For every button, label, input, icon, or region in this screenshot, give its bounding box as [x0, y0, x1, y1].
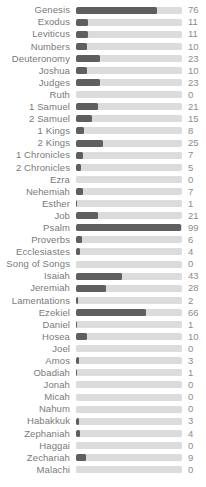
- value-label: 9: [188, 453, 193, 463]
- chart-row: Song of Songs0: [0, 258, 206, 270]
- chart-row: Joel0: [0, 343, 206, 355]
- bar-track: [76, 333, 182, 340]
- bar-track: [76, 369, 182, 376]
- chart-row: Numbers10: [0, 40, 206, 52]
- chart-row: Daniel1: [0, 318, 206, 330]
- value-label: 0: [188, 259, 193, 269]
- book-label: Job: [0, 211, 70, 221]
- book-label: Numbers: [0, 42, 70, 52]
- bar-track: [76, 406, 182, 413]
- chart-row: Micah0: [0, 391, 206, 403]
- chart-row: Nehemiah7: [0, 185, 206, 197]
- value-label: 7: [188, 150, 193, 160]
- value-label: 4: [188, 429, 193, 439]
- value-label: 99: [188, 223, 199, 233]
- chart-row: Ruth0: [0, 89, 206, 101]
- book-label: Esther: [0, 199, 70, 209]
- book-label: Zephaniah: [0, 429, 70, 439]
- chart-row: Habakkuk3: [0, 415, 206, 427]
- chart-row: Exodus11: [0, 16, 206, 28]
- value-label: 25: [188, 138, 199, 148]
- value-label: 5: [188, 163, 193, 173]
- bar-fill: [76, 454, 86, 461]
- value-label: 3: [188, 356, 193, 366]
- bar-chart: Genesis76Exodus11Leviticus11Numbers10Deu…: [0, 0, 206, 476]
- book-label: Exodus: [0, 17, 70, 27]
- bar-track: [76, 127, 182, 134]
- bar-fill: [76, 430, 80, 437]
- bar-track: [76, 394, 182, 401]
- bar-track: [76, 7, 182, 14]
- book-label: Joel: [0, 344, 70, 354]
- book-label: Habakkuk: [0, 416, 70, 426]
- book-label: Ezra: [0, 175, 70, 185]
- bar-track: [76, 152, 182, 159]
- bar-track: [76, 381, 182, 388]
- bar-fill: [76, 67, 87, 74]
- value-label: 11: [188, 17, 198, 27]
- bar-fill: [76, 236, 82, 243]
- bar-track: [76, 188, 182, 195]
- bar-track: [76, 176, 182, 183]
- value-label: 23: [188, 54, 199, 64]
- book-label: Proverbs: [0, 235, 70, 245]
- bar-fill: [76, 369, 77, 376]
- bar-track: [76, 67, 182, 74]
- book-label: Psalm: [0, 223, 70, 233]
- value-label: 76: [188, 5, 199, 15]
- bar-fill: [76, 140, 103, 147]
- bar-fill: [76, 248, 80, 255]
- chart-row: 1 Chronicles7: [0, 149, 206, 161]
- book-label: Zechariah: [0, 453, 70, 463]
- book-label: 2 Kings: [0, 138, 70, 148]
- bar-fill: [76, 152, 83, 159]
- bar-fill: [76, 333, 87, 340]
- book-label: 1 Samuel: [0, 102, 70, 112]
- chart-row: Joshua10: [0, 64, 206, 76]
- book-label: Haggai: [0, 441, 70, 451]
- chart-row: Obadiah1: [0, 367, 206, 379]
- chart-row: Ecclesiastes4: [0, 246, 206, 258]
- bar-fill: [76, 164, 81, 171]
- book-label: Isaiah: [0, 271, 70, 281]
- bar-track: [76, 212, 182, 219]
- chart-row: Deuteronomy23: [0, 52, 206, 64]
- chart-row: Job21: [0, 210, 206, 222]
- bar-track: [76, 430, 182, 437]
- bar-fill: [76, 273, 122, 280]
- book-label: Hosea: [0, 332, 70, 342]
- bar-fill: [76, 127, 84, 134]
- value-label: 0: [188, 441, 193, 451]
- value-label: 2: [188, 296, 193, 306]
- bar-track: [76, 91, 182, 98]
- bar-fill: [76, 103, 98, 110]
- value-label: 21: [188, 211, 199, 221]
- bar-fill: [76, 79, 100, 86]
- chart-row: Haggai0: [0, 439, 206, 451]
- book-label: Joshua: [0, 66, 70, 76]
- value-label: 8: [188, 126, 193, 136]
- bar-track: [76, 248, 182, 255]
- book-label: Jeremiah: [0, 283, 70, 293]
- value-label: 6: [188, 235, 193, 245]
- book-label: Ruth: [0, 90, 70, 100]
- chart-row: Ezra0: [0, 173, 206, 185]
- value-label: 11: [188, 29, 198, 39]
- bar-fill: [76, 43, 87, 50]
- book-label: Malachi: [0, 465, 70, 475]
- bar-track: [76, 345, 182, 352]
- bar-fill: [76, 321, 77, 328]
- chart-row: 2 Chronicles5: [0, 161, 206, 173]
- book-label: Obadiah: [0, 368, 70, 378]
- value-label: 1: [188, 320, 193, 330]
- chart-row: Proverbs6: [0, 234, 206, 246]
- bar-fill: [76, 31, 88, 38]
- chart-row: 2 Kings25: [0, 137, 206, 149]
- bar-fill: [76, 297, 78, 304]
- bar-track: [76, 43, 182, 50]
- chart-row: Judges23: [0, 77, 206, 89]
- bar-track: [76, 466, 182, 473]
- book-label: Micah: [0, 392, 70, 402]
- bar-fill: [76, 188, 83, 195]
- bar-fill: [76, 55, 100, 62]
